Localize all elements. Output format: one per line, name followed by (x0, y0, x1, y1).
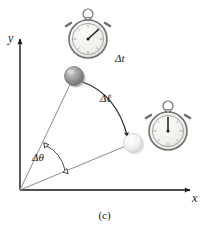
x-axis-label: x (192, 192, 197, 204)
y-axis-label: y (8, 32, 13, 44)
bob-initial-body (65, 67, 84, 86)
radius-initial-line (20, 76, 74, 190)
arc-delta-theta (46, 146, 66, 172)
bob-initial-highlight (67, 70, 73, 75)
stopwatch-end-left-button (146, 115, 151, 118)
radius-lines-group (20, 76, 133, 190)
delta-t-label: Δt (115, 53, 125, 64)
diagram-canvas (0, 0, 209, 238)
pendulum-bob-initial (65, 67, 86, 88)
figure-caption: (c) (0, 210, 209, 221)
stopwatch-end-right-button (185, 115, 190, 118)
stopwatch-start (66, 9, 110, 58)
stopwatch-end-hub (167, 130, 170, 133)
pendulum-bob-final (124, 134, 145, 155)
stopwatch-start-right-button (105, 23, 110, 26)
stopwatch-start-left-button (66, 23, 71, 26)
stopwatch-start-hub (87, 38, 90, 41)
arc-delta-theta-path (46, 146, 66, 172)
arc-delta-l (82, 82, 128, 138)
bob-final-body (124, 134, 143, 153)
delta-theta-label: Δθ (32, 152, 44, 163)
stopwatch-end (146, 101, 190, 150)
physics-diagram-figure: y x Δt Δℓ Δθ (c) (0, 0, 209, 238)
delta-l-label: Δℓ (100, 93, 111, 104)
arc-delta-l-path (82, 82, 128, 138)
